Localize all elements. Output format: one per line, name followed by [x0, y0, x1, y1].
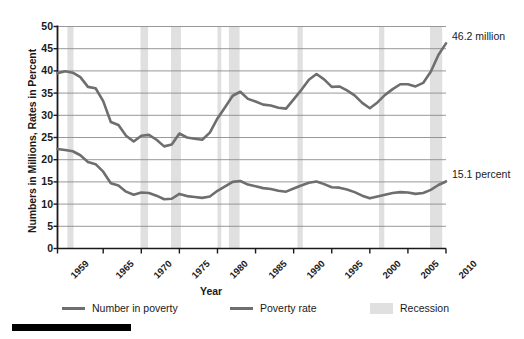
x-tick-label: 2010 — [456, 258, 479, 281]
legend-item-poverty-rate[interactable]: Poverty rate — [230, 302, 317, 314]
x-tick-label: 1959 — [68, 258, 91, 281]
legend-label: Number in poverty — [92, 302, 178, 314]
x-tick-label: 2005 — [418, 258, 441, 281]
legend-item-number-in-poverty[interactable]: Number in poverty — [62, 302, 178, 314]
x-tick-label: 1980 — [228, 258, 251, 281]
footer-black-bar — [12, 324, 131, 331]
x-tick-label: 1970 — [151, 258, 174, 281]
poverty-rate-end-label: 15.1 percent — [452, 168, 510, 180]
x-axis-tick-labels: 1959196519701975198019851990199520002005… — [0, 0, 524, 339]
x-tick-label: 1985 — [266, 258, 289, 281]
legend-line-swatch — [62, 307, 85, 310]
x-tick-label: 1965 — [113, 258, 136, 281]
legend-item-recession[interactable]: Recession — [370, 302, 449, 314]
x-tick-label: 1995 — [342, 258, 365, 281]
chart-legend: Number in povertyPoverty rateRecession — [0, 302, 524, 322]
legend-label: Poverty rate — [260, 302, 317, 314]
x-tick-label: 1975 — [190, 258, 213, 281]
legend-label: Recession — [400, 302, 449, 314]
legend-box-swatch — [370, 303, 393, 314]
legend-line-swatch — [230, 307, 253, 310]
x-tick-label: 2000 — [380, 258, 403, 281]
x-tick-label: 1990 — [304, 258, 327, 281]
poverty-chart-figure: Numbers in Millions, Rates in Percent Ye… — [0, 0, 524, 339]
number-in-poverty-end-label: 46.2 million — [452, 30, 505, 42]
